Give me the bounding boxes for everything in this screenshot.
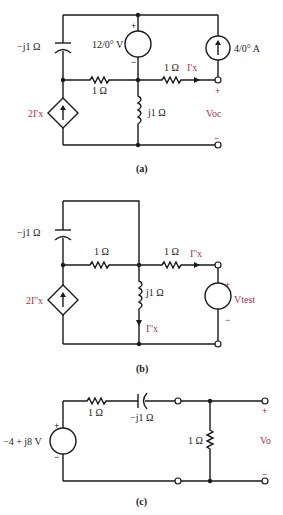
svg-text:+: + — [131, 21, 136, 31]
caption-c: (c) — [136, 496, 147, 508]
voltage-source-icon — [50, 428, 76, 454]
voltage-source-icon — [125, 31, 151, 57]
circuit-a: −j1 Ω + − 12/0° V 4/0° A 1 Ω 1 Ω I'x + 2… — [17, 13, 261, 175]
arrow-icon — [194, 262, 200, 268]
terminal-minus — [215, 142, 221, 148]
voltage-source-label: −4 + j8 V — [3, 436, 42, 447]
voltage-source-label: 12/0° V — [92, 39, 124, 50]
resistor-load-label: 1 Ω — [188, 435, 203, 446]
svg-text:+: + — [262, 406, 267, 416]
circuit-figure: −j1 Ω + − 12/0° V 4/0° A 1 Ω 1 Ω I'x + 2… — [0, 0, 283, 515]
vo-label: Vo — [260, 435, 271, 446]
vtest-label: Vtest — [234, 294, 255, 305]
resistor-load-icon — [207, 401, 213, 481]
inductor-label: j1 Ω — [145, 287, 164, 298]
inductor-icon — [138, 80, 141, 145]
svg-text:+: + — [225, 280, 230, 290]
circuit-b: −j1 Ω 1 Ω 1 Ω I''x 2I''x j1 Ω I''x + − V… — [17, 201, 255, 375]
inductor-label: j1 Ω — [147, 107, 166, 118]
caption-b: (b) — [136, 363, 148, 375]
circuit-c: 1 Ω −j1 Ω + − −4 + j8 V 1 Ω + Vo − (c) — [3, 393, 271, 508]
terminal-plus — [215, 77, 221, 83]
capacitor-label: −j1 Ω — [130, 412, 153, 423]
svg-text:+: + — [54, 421, 59, 431]
current-label: I'x — [187, 62, 197, 73]
resistor-right-label: 1 Ω — [164, 62, 179, 73]
dependent-source-label: 2I''x — [26, 295, 43, 306]
svg-text:−: − — [131, 57, 136, 67]
caption-a: (a) — [136, 163, 148, 175]
resistor-right-label: 1 Ω — [164, 246, 179, 257]
voc-label: Voc — [206, 108, 222, 119]
resistor-left-label: 1 Ω — [92, 85, 107, 96]
resistor-series-label: 1 Ω — [88, 407, 103, 418]
svg-text:−: − — [225, 315, 230, 325]
svg-text:−: − — [54, 452, 59, 462]
svg-text:+: + — [215, 86, 220, 96]
resistor-left-label: 1 Ω — [94, 246, 109, 257]
arrow-icon — [194, 77, 200, 83]
capacitor-label: −j1 Ω — [17, 41, 40, 52]
current-label-inductor: I''x — [146, 323, 158, 334]
inductor-icon — [139, 265, 142, 344]
current-label-right: I''x — [190, 248, 202, 259]
arrow-icon — [136, 320, 142, 326]
current-source-label: 4/0° A — [234, 43, 261, 54]
capacitor-label: −j1 Ω — [17, 227, 40, 238]
dependent-source-label: 2I'x — [28, 108, 43, 119]
